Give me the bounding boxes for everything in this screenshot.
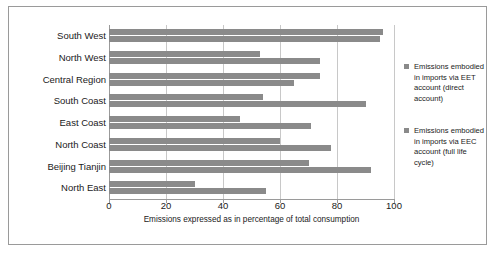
bar[interactable]: [109, 58, 320, 64]
chart-legend: Emissions embodied in imports via EET ac…: [404, 62, 488, 190]
legend-label-eet: Emissions embodied in imports via EET ac…: [414, 62, 484, 103]
x-tick-label: 100: [386, 200, 402, 211]
category-label: Beijing Tianjin: [21, 156, 106, 178]
bar[interactable]: [109, 101, 366, 107]
x-tick-label: 20: [161, 200, 172, 211]
bar[interactable]: [109, 181, 195, 187]
legend-swatch-icon: [404, 128, 409, 133]
category-label: North East: [21, 177, 106, 199]
legend-swatch-icon: [404, 64, 409, 69]
bar-group: [109, 134, 394, 156]
bar-group: [109, 69, 394, 91]
category-label: South West: [21, 25, 106, 47]
bar[interactable]: [109, 36, 380, 42]
category-label: North Coast: [21, 134, 106, 156]
bar-group: [109, 25, 394, 47]
category-label: Central Region: [21, 69, 106, 91]
bar[interactable]: [109, 94, 263, 100]
bar-group: [109, 90, 394, 112]
category-axis-labels: South WestNorth WestCentral RegionSouth …: [21, 25, 106, 199]
x-axis-title: Emissions expressed as in percentage of …: [109, 215, 394, 224]
bar-group: [109, 156, 394, 178]
bar-group: [109, 112, 394, 134]
gridline: [394, 25, 395, 199]
bar[interactable]: [109, 116, 240, 122]
x-tick-label: 80: [332, 200, 343, 211]
bar[interactable]: [109, 160, 309, 166]
legend-entry-eet: Emissions embodied in imports via EET ac…: [404, 62, 488, 104]
category-label: South Coast: [21, 90, 106, 112]
chart-frame: South WestNorth WestCentral RegionSouth …: [8, 6, 487, 245]
bar-group: [109, 177, 394, 199]
bar[interactable]: [109, 138, 280, 144]
x-tick-label: 60: [275, 200, 286, 211]
bar[interactable]: [109, 123, 311, 129]
legend-label-eec: Emissions embodied in imports via EEC ac…: [414, 126, 484, 167]
bar[interactable]: [109, 73, 320, 79]
bar[interactable]: [109, 80, 294, 86]
bar[interactable]: [109, 51, 260, 57]
x-tick-label: 0: [106, 200, 111, 211]
bar[interactable]: [109, 188, 266, 194]
category-label: East Coast: [21, 112, 106, 134]
bar-group: [109, 47, 394, 69]
plot-area: [109, 25, 394, 199]
bar[interactable]: [109, 167, 371, 173]
bar[interactable]: [109, 29, 383, 35]
bar[interactable]: [109, 145, 331, 151]
category-label: North West: [21, 47, 106, 69]
legend-entry-eec: Emissions embodied in imports via EEC ac…: [404, 126, 488, 168]
x-axis-tick-labels: 020406080100: [109, 200, 394, 214]
x-tick-label: 40: [218, 200, 229, 211]
